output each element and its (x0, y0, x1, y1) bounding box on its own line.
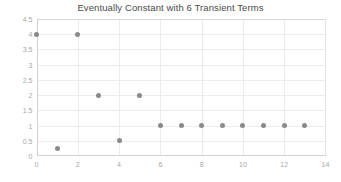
data-point (75, 32, 80, 37)
data-point (240, 123, 245, 128)
x-axis-tick-label: 10 (233, 161, 253, 168)
x-axis-tick-label: 6 (150, 161, 170, 168)
data-point (302, 123, 307, 128)
chart-title: Eventually Constant with 6 Transient Ter… (0, 2, 341, 13)
data-point (220, 123, 225, 128)
gridline-horizontal (37, 141, 326, 142)
data-point (137, 93, 142, 98)
gridline-horizontal (37, 65, 326, 66)
y-axis-tick-label: 3 (3, 61, 33, 68)
gridline-vertical (119, 19, 120, 156)
y-axis-tick-label: 4.5 (3, 16, 33, 23)
data-point (158, 123, 163, 128)
data-point (199, 123, 204, 128)
gridline-vertical (284, 19, 285, 156)
y-axis-tick-label: 3.5 (3, 46, 33, 53)
x-axis-tick-label: 12 (274, 161, 294, 168)
x-axis-tick-label: 4 (109, 161, 129, 168)
x-axis-tick-label: 2 (68, 161, 88, 168)
y-axis-tick-label: 2.5 (3, 76, 33, 83)
y-axis-tick-label: 1.5 (3, 107, 33, 114)
plot-frame (37, 19, 326, 156)
gridline-vertical (160, 19, 161, 156)
x-axis-tick-label: 0 (27, 161, 47, 168)
gridline-vertical (78, 19, 79, 156)
gridline-horizontal (37, 95, 326, 96)
plot-area (37, 19, 326, 156)
data-point (282, 123, 287, 128)
x-axis-tick-label: 14 (316, 161, 336, 168)
gridline-horizontal (37, 80, 326, 81)
gridline-vertical (243, 19, 244, 156)
y-axis-tick-label: 1 (3, 122, 33, 129)
gridline-horizontal (37, 110, 326, 111)
y-axis-tick-label: 4 (3, 31, 33, 38)
data-point (34, 32, 39, 37)
data-point (261, 123, 266, 128)
scatter-chart-figure: Eventually Constant with 6 Transient Ter… (0, 0, 341, 182)
data-point (179, 123, 184, 128)
data-point (117, 138, 122, 143)
data-point (55, 146, 60, 151)
gridline-horizontal (37, 49, 326, 50)
y-axis-tick-label: 2 (3, 92, 33, 99)
gridline-vertical (202, 19, 203, 156)
x-axis-tick-label: 8 (192, 161, 212, 168)
y-axis-tick-label: 0.5 (3, 137, 33, 144)
y-axis-tick-label: 0 (3, 153, 33, 160)
data-point (96, 93, 101, 98)
